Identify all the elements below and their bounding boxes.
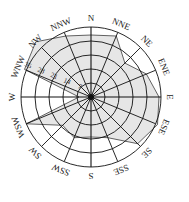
direction-label-ssw: SSW: [50, 162, 71, 179]
direction-label-ne: NE: [139, 33, 155, 49]
direction-label-sw: SW: [26, 144, 43, 161]
direction-label-e: E: [165, 94, 175, 100]
direction-label-ene: ENE: [156, 57, 172, 77]
direction-label-s: S: [88, 171, 93, 181]
polar-grid: [21, 27, 161, 167]
direction-label-sse: SSE: [112, 162, 131, 177]
direction-label-ese: ESE: [156, 118, 172, 137]
direction-label-n: N: [88, 13, 95, 23]
direction-label-se: SE: [139, 146, 154, 161]
direction-label-nne: NNE: [111, 16, 132, 33]
wind-rose-chart: NNNENEENEEESESESSESSSWSWWSWWWNWNWNNW 714…: [0, 0, 189, 202]
direction-label-w: W: [7, 92, 17, 101]
